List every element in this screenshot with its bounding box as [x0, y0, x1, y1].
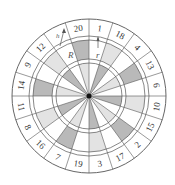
- sector-number-8: 8: [22, 123, 33, 132]
- outer-segment-12: [44, 51, 68, 75]
- radius-r-label: r: [96, 50, 100, 60]
- bullseye: [87, 94, 92, 99]
- sector-number-9: 9: [22, 60, 33, 69]
- outer-segment-2: [111, 118, 135, 142]
- sector-number-11: 11: [16, 102, 27, 112]
- outer-segment-7: [56, 126, 77, 149]
- sector-number-15: 15: [144, 120, 157, 133]
- sector-number-18: 18: [114, 28, 127, 41]
- radius-R-label: R: [67, 50, 74, 60]
- sector-number-10: 10: [151, 101, 162, 112]
- sector-number-3: 3: [97, 158, 104, 169]
- sector-number-1: 1: [97, 23, 103, 34]
- sector-number-17: 17: [114, 150, 127, 163]
- sector-number-14: 14: [16, 80, 27, 91]
- sector-number-13: 13: [144, 59, 157, 72]
- height-arrowhead-icon: [62, 28, 66, 33]
- sector-number-2: 2: [132, 139, 142, 149]
- sector-number-16: 16: [34, 138, 48, 152]
- sector-number-6: 6: [151, 82, 162, 89]
- sector-number-12: 12: [34, 41, 47, 54]
- sector-number-7: 7: [54, 152, 63, 163]
- height-h-label: h: [56, 32, 60, 40]
- sector-number-19: 19: [73, 158, 84, 169]
- sector-number-20: 20: [73, 23, 84, 34]
- outer-segment-13: [119, 63, 142, 84]
- outer-segment-8: [36, 107, 59, 128]
- outer-segment-18: [100, 43, 121, 66]
- dartboard-diagram: 118413610152173197168111491220 R r h: [0, 0, 175, 185]
- sector-number-4: 4: [132, 42, 143, 53]
